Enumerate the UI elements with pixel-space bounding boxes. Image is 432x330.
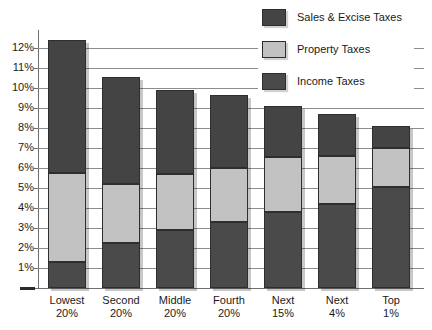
bar-segment[interactable]: [156, 174, 194, 230]
y-axis-zero-stub: [20, 287, 35, 290]
bar-segment[interactable]: [210, 168, 248, 222]
y-tick-mark: [33, 68, 38, 69]
bar-segment[interactable]: [48, 262, 86, 288]
legend-label: Income Taxes: [297, 74, 365, 88]
y-tick-mark: [33, 268, 38, 269]
x-category-line1: Top: [353, 294, 429, 307]
y-tick-label: 9%: [0, 102, 34, 113]
y-tick-label: 3%: [0, 222, 34, 233]
y-tick-label: 11%: [0, 62, 34, 73]
y-tick-label: 4%: [0, 202, 34, 213]
y-tick-mark: [33, 188, 38, 189]
y-tick-mark: [33, 228, 38, 229]
bar-segment[interactable]: [318, 156, 356, 204]
bar-segment[interactable]: [372, 187, 410, 288]
bar-segment[interactable]: [156, 90, 194, 174]
y-tick-label: 2%: [0, 242, 34, 253]
y-tick-label: 8%: [0, 122, 34, 133]
legend-label: Property Taxes: [297, 42, 370, 56]
bar-segment[interactable]: [156, 230, 194, 288]
bar-segment[interactable]: [318, 204, 356, 288]
bar-segment[interactable]: [102, 243, 140, 288]
y-tick-label: 7%: [0, 142, 34, 153]
bar-segment[interactable]: [48, 40, 86, 173]
legend-swatch-icon: [262, 9, 286, 26]
legend-item[interactable]: Sales & Excise Taxes: [262, 6, 432, 38]
y-axis-labels: 12%11%10%9%8%7%6%5%4%3%2%1%: [0, 0, 34, 330]
bar-segment[interactable]: [102, 77, 140, 184]
legend: Sales & Excise TaxesProperty TaxesIncome…: [262, 6, 432, 102]
bar-segment[interactable]: [372, 148, 410, 187]
legend-item[interactable]: Property Taxes: [262, 38, 432, 70]
bar-segment[interactable]: [210, 222, 248, 288]
y-tick-mark: [33, 148, 38, 149]
x-category-label: Top1%: [353, 294, 429, 320]
bar-segment[interactable]: [372, 126, 410, 148]
bar-segment[interactable]: [48, 173, 86, 262]
y-tick-mark: [33, 208, 38, 209]
bar-segment[interactable]: [210, 95, 248, 168]
bar-segment[interactable]: [264, 157, 302, 212]
bar-segment[interactable]: [318, 114, 356, 156]
legend-swatch-icon: [262, 41, 286, 58]
bar-segment[interactable]: [102, 184, 140, 243]
y-tick-label: 6%: [0, 162, 34, 173]
bar-segment[interactable]: [264, 106, 302, 157]
y-tick-label: 5%: [0, 182, 34, 193]
bar-segment[interactable]: [264, 212, 302, 288]
legend-swatch-icon: [262, 73, 286, 90]
stacked-bar-chart: 12%11%10%9%8%7%6%5%4%3%2%1% Lowest20%Sec…: [0, 0, 432, 330]
legend-label: Sales & Excise Taxes: [297, 10, 402, 24]
y-tick-label: 10%: [0, 82, 34, 93]
x-category-line2: 1%: [353, 307, 429, 320]
y-tick-label: 1%: [0, 262, 34, 273]
y-tick-mark: [33, 48, 38, 49]
y-tick-mark: [33, 88, 38, 89]
y-tick-mark: [33, 108, 38, 109]
legend-item[interactable]: Income Taxes: [262, 70, 432, 102]
y-tick-mark: [33, 168, 38, 169]
y-tick-mark: [33, 128, 38, 129]
y-tick-label: 12%: [0, 42, 34, 53]
y-tick-mark: [33, 248, 38, 249]
